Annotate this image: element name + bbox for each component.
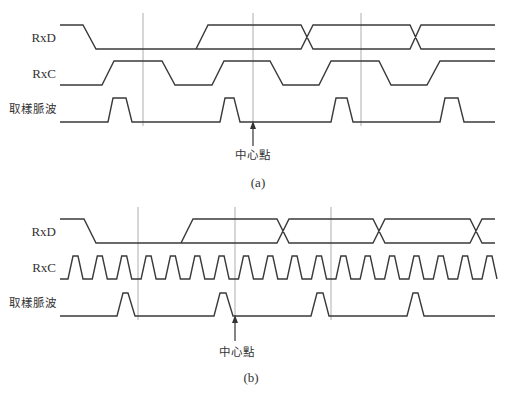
caption-b: (b) (243, 370, 258, 385)
center-point-arrow-icon (250, 121, 256, 146)
caption-a: (a) (251, 175, 265, 190)
rxd-waveform (60, 25, 495, 49)
center-point-arrow-icon (232, 315, 238, 341)
sample-pulse-label: 取樣脈波 (9, 296, 57, 310)
center-point-label: 中心點 (219, 345, 255, 359)
rxc-label: RxC (32, 66, 56, 81)
sample-pulse-waveform (60, 98, 495, 122)
rxd-label: RxD (31, 224, 56, 239)
sample-pulse-label: 取樣脈波 (9, 102, 57, 116)
rxd-waveform (60, 219, 495, 243)
rxc-waveform (60, 256, 497, 279)
sample-pulse-waveform (60, 293, 495, 316)
diagram-b: RxD RxC 取樣脈波 中心點 (b) (9, 207, 497, 385)
center-point-label: 中心點 (235, 148, 271, 162)
diagram-a: RxD RxC 取樣脈波 中心點 (a) (9, 13, 495, 190)
rxc-waveform (60, 61, 495, 85)
timing-diagram-canvas: RxD RxC 取樣脈波 中心點 (a) RxD RxC 取樣脈波 中心點 (b… (0, 0, 507, 397)
rxc-label: RxC (32, 260, 56, 275)
rxd-label: RxD (31, 30, 56, 45)
